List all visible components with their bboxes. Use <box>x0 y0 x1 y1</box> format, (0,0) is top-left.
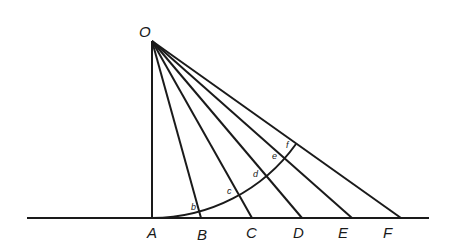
label-d: D <box>293 224 304 241</box>
label-b: B <box>197 226 207 243</box>
label-arc-e: e <box>272 151 277 161</box>
ray-o-b <box>152 41 201 218</box>
ray-o-e <box>152 41 352 218</box>
label-e: E <box>338 224 349 241</box>
label-a: A <box>146 224 157 241</box>
label-arc-b: b <box>191 202 196 212</box>
label-arc-d: d <box>253 169 259 179</box>
label-o: O <box>139 23 151 40</box>
label-arc-f: f <box>286 140 290 150</box>
label-f: F <box>383 224 393 241</box>
label-c: C <box>246 224 257 241</box>
geometry-diagram: ABCDEFObcdef <box>0 0 455 252</box>
ray-o-f <box>152 41 401 218</box>
ray-o-c <box>152 41 252 218</box>
label-arc-c: c <box>227 186 232 196</box>
